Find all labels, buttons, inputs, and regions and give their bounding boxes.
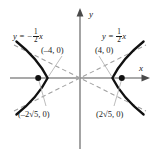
asymptote-label-right: y = 12x [102,29,126,45]
focus-point-left [35,75,41,81]
asymptote-left-prefix: y = − [13,31,33,41]
focus-label-left: (–2√5, 0) [18,110,50,119]
asymptote-left-fraction: 12 [33,29,39,45]
hyperbola-figure: y x y = −12x y = 12x (–4, 0) (4, 0) (–2√… [0,0,160,157]
vertex-label-right: (4, 0) [95,46,113,55]
asymptote-right-prefix: y = [102,31,116,41]
y-axis-label: y [89,10,93,19]
vertex-label-left: (–4, 0) [41,46,64,55]
asymptote-right-variable: x [122,31,126,41]
asymptote-left-variable: x [39,31,43,41]
x-axis-label: x [139,64,143,73]
focus-point-right [119,75,125,81]
asymptote-label-left: y = −12x [13,29,43,45]
asymptote-left-numerator: 1 [33,29,39,36]
graph-canvas [0,0,160,157]
asymptote-left-denominator: 2 [33,36,39,44]
focus-label-right: (2√5, 0) [96,110,123,119]
